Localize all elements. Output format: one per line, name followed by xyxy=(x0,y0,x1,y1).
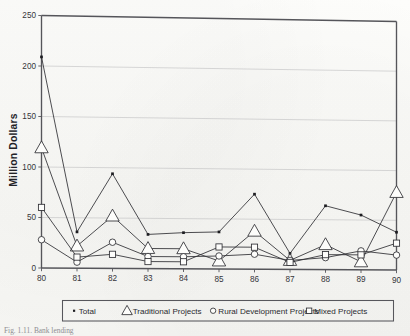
x-axis-ticks: 8081828384858687888990 xyxy=(37,268,402,285)
x-tick-label: 82 xyxy=(108,274,118,283)
data-point-open-triangle xyxy=(106,209,119,221)
data-point-open-square xyxy=(38,204,44,210)
y-tick-label: 150 xyxy=(22,112,36,121)
data-point-open-square xyxy=(287,259,293,265)
legend-label: Rural Development Projects xyxy=(218,307,319,316)
y-tick-label: 100 xyxy=(22,163,36,172)
data-point-open-circle xyxy=(216,253,223,260)
data-point-open-triangle xyxy=(248,224,261,236)
x-tick-label: 87 xyxy=(285,275,295,284)
y-tick-label: 50 xyxy=(27,213,37,222)
data-point-open-triangle xyxy=(390,186,403,198)
data-point-open-square xyxy=(393,240,399,246)
legend-item-traditional-projects: Traditional Projects xyxy=(122,305,202,315)
legend-marker-open-square-icon xyxy=(306,308,311,313)
x-tick-label: 85 xyxy=(214,275,224,284)
chart-legend: TotalTraditional ProjectsRural Developme… xyxy=(63,301,394,322)
legend-label: Mixed Projects xyxy=(314,307,367,316)
x-tick-label: 88 xyxy=(321,275,331,284)
y-tick-label: 200 xyxy=(22,62,36,71)
data-point-open-triangle xyxy=(70,239,83,251)
x-tick-label: 89 xyxy=(356,275,366,284)
series-total xyxy=(40,56,398,255)
legend-item-mixed-projects: Mixed Projects xyxy=(306,307,367,316)
x-tick-label: 81 xyxy=(72,274,82,283)
y-tick-label: 250 xyxy=(22,11,36,20)
legend-marker-filled-dot-icon xyxy=(73,310,75,312)
data-point-open-triangle xyxy=(319,238,332,250)
x-tick-label: 84 xyxy=(179,274,189,283)
data-series xyxy=(35,56,403,267)
legend-marker-open-circle-icon xyxy=(210,308,215,313)
legend-item-total: Total xyxy=(73,307,96,316)
data-point-open-square xyxy=(74,254,80,260)
data-point-filled-dot xyxy=(395,231,398,234)
data-point-filled-dot xyxy=(182,231,185,234)
x-tick-label: 86 xyxy=(250,275,260,284)
data-point-open-square xyxy=(358,252,364,258)
data-point-open-circle xyxy=(38,236,45,243)
figure-caption: Fig. 1.11. Bank lending xyxy=(4,326,74,335)
x-tick-label: 80 xyxy=(37,274,47,283)
data-point-open-circle xyxy=(393,252,400,259)
data-point-open-triangle xyxy=(141,242,154,254)
data-point-open-triangle xyxy=(35,141,48,153)
data-point-open-square xyxy=(180,259,186,265)
data-point-filled-dot xyxy=(253,193,256,196)
legend-label: Total xyxy=(79,307,96,316)
y-axis-ticks: 050100150200250 xyxy=(22,11,41,273)
legend-marker-open-triangle-icon xyxy=(122,305,132,314)
gridlines xyxy=(42,66,397,220)
data-point-open-triangle xyxy=(177,242,190,254)
y-tick-label: 0 xyxy=(31,264,36,273)
data-point-open-square xyxy=(322,252,328,258)
y-axis-title: Million Dollars xyxy=(8,113,19,186)
x-tick-label: 83 xyxy=(143,274,153,283)
line-chart: 050100150200250 8081828384858687888990 M… xyxy=(0,0,410,336)
data-point-filled-dot xyxy=(147,233,150,236)
data-point-filled-dot xyxy=(40,56,43,59)
data-point-filled-dot xyxy=(76,231,79,234)
data-point-filled-dot xyxy=(111,172,114,175)
data-point-open-square xyxy=(109,251,115,257)
data-point-open-square xyxy=(251,244,257,250)
x-tick-label: 90 xyxy=(392,276,402,285)
data-point-filled-dot xyxy=(218,231,221,234)
legend-label: Traditional Projects xyxy=(133,307,202,316)
data-point-open-circle xyxy=(251,251,258,258)
legend-item-rural-development-projects: Rural Development Projects xyxy=(210,307,319,316)
data-point-open-square xyxy=(145,258,151,264)
data-point-filled-dot xyxy=(324,204,327,207)
data-point-open-square xyxy=(216,244,222,250)
data-point-filled-dot xyxy=(360,214,363,217)
data-point-open-circle xyxy=(109,239,116,246)
figure-bank-lending: 050100150200250 8081828384858687888990 M… xyxy=(0,0,410,336)
